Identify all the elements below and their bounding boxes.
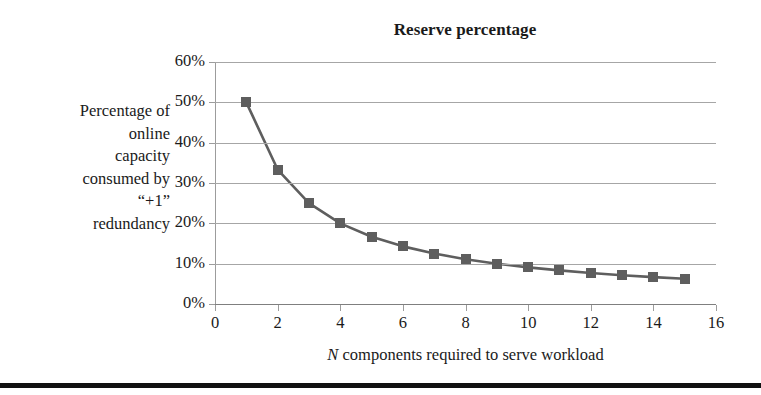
data-point-marker	[461, 254, 471, 264]
gridline-y	[215, 143, 716, 144]
y-axis-tick-label: 30%	[145, 174, 205, 191]
x-axis-tick	[403, 305, 404, 311]
x-axis-tick-label: 0	[195, 313, 235, 333]
y-axis-tick	[209, 183, 215, 184]
y-axis-tick-label: 0%	[145, 295, 205, 312]
data-point-marker	[680, 274, 690, 284]
data-point-marker	[586, 268, 596, 278]
y-axis-tick	[209, 62, 215, 63]
y-axis-tick-label: 50%	[145, 93, 205, 110]
x-axis-tick	[591, 305, 592, 311]
y-axis-tick	[209, 143, 215, 144]
bottom-divider-rule	[0, 383, 761, 388]
y-axis-tick-label: 40%	[145, 134, 205, 151]
data-point-marker	[241, 97, 251, 107]
data-point-marker	[492, 259, 502, 269]
chart-title: Reserve percentage	[265, 20, 665, 40]
x-axis-tick	[716, 305, 717, 311]
y-axis-tick-group: 0%10%20%30%40%50%60%	[143, 0, 205, 395]
data-point-marker	[398, 241, 408, 251]
gridline-y	[215, 223, 716, 224]
x-axis-tick	[340, 305, 341, 311]
x-axis-tick	[215, 305, 216, 311]
gridline-y	[215, 183, 716, 184]
x-axis-title: N components required to serve workload	[215, 345, 716, 365]
x-axis-tick-label: 4	[320, 313, 360, 333]
x-axis-tick-label: 8	[446, 313, 486, 333]
plot-area	[215, 62, 716, 304]
y-axis-tick-label: 60%	[145, 53, 205, 70]
y-axis-tick	[209, 264, 215, 265]
data-point-marker	[617, 270, 627, 280]
gridline-y	[215, 62, 716, 63]
data-point-marker	[367, 232, 377, 242]
x-axis-title-variable: N	[327, 345, 338, 364]
x-axis-tick-label: 10	[508, 313, 548, 333]
x-axis-tick-label: 2	[258, 313, 298, 333]
x-axis-tick	[466, 305, 467, 311]
data-point-marker	[335, 218, 345, 228]
x-axis-tick-label: 12	[571, 313, 611, 333]
y-axis-tick-label: 10%	[145, 255, 205, 272]
data-point-marker	[304, 198, 314, 208]
x-axis-tick	[653, 305, 654, 311]
x-axis-tick	[278, 305, 279, 311]
y-axis-tick	[209, 102, 215, 103]
y-axis-tick	[209, 223, 215, 224]
data-point-marker	[273, 165, 283, 175]
data-point-marker	[523, 262, 533, 272]
x-axis-tick-label: 6	[383, 313, 423, 333]
x-axis-tick	[528, 305, 529, 311]
chart-figure: Reserve percentage Percentage of online …	[0, 0, 761, 395]
data-point-marker	[429, 249, 439, 259]
x-axis-tick-label: 14	[633, 313, 673, 333]
x-axis-title-text: components required to serve workload	[338, 345, 603, 364]
data-point-marker	[648, 272, 658, 282]
x-axis-tick-label: 16	[696, 313, 736, 333]
data-point-marker	[554, 265, 564, 275]
y-axis-tick-label: 20%	[145, 214, 205, 231]
gridline-y	[215, 102, 716, 103]
